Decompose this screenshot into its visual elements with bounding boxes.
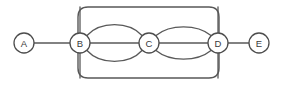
node-b[interactable]: B bbox=[70, 33, 90, 53]
edge-b-c-bottom-arc bbox=[87, 51, 142, 62]
node-e-label: E bbox=[256, 38, 262, 49]
graph-svg: A B C D E bbox=[0, 0, 283, 86]
node-a-label: A bbox=[21, 38, 28, 49]
node-d[interactable]: D bbox=[208, 33, 228, 53]
node-e[interactable]: E bbox=[249, 33, 269, 53]
node-c[interactable]: C bbox=[139, 33, 159, 53]
node-d-label: D bbox=[215, 38, 222, 49]
graph-diagram-canvas: A B C D E bbox=[0, 0, 283, 86]
edge-c-d-bottom-arc bbox=[156, 51, 211, 60]
node-c-label: C bbox=[146, 38, 153, 49]
edge-c-d-top-arc bbox=[156, 27, 211, 36]
node-a[interactable]: A bbox=[14, 33, 34, 53]
node-b-label: B bbox=[77, 38, 83, 49]
edge-b-c-top-arc bbox=[87, 25, 142, 36]
